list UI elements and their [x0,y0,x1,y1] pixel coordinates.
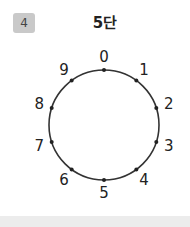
point-label: 2 [164,95,174,113]
point-dot [50,140,54,144]
point-label: 5 [99,184,109,202]
point-dot [70,167,74,171]
point-dot [134,167,138,171]
footer-bar [0,216,190,227]
point-dot [154,140,158,144]
point-label: 0 [99,48,109,66]
point-dot [50,106,54,110]
point-dot [102,178,106,182]
point-label: 4 [139,171,149,189]
point-label: 6 [59,171,69,189]
point-label: 9 [59,61,69,79]
point-dot [102,68,106,72]
point-label: 3 [164,137,174,155]
point-dot [154,106,158,110]
point-dot [70,79,74,83]
point-dot [134,79,138,83]
circle-outline [49,70,159,180]
point-label: 8 [35,95,45,113]
point-label: 1 [139,61,149,79]
digit-circle-diagram: 0123456789 [0,0,190,227]
point-label: 7 [35,137,45,155]
